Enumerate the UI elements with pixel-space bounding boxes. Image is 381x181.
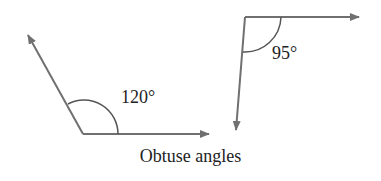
ray-down: [236, 17, 245, 130]
angle-arc: [68, 100, 118, 134]
angle-label: 120°: [121, 87, 155, 107]
caption: Obtuse angles: [0, 146, 381, 167]
ray-upper-left: [28, 35, 83, 134]
angle-95: 95°: [236, 17, 359, 130]
angle-label: 95°: [272, 43, 297, 63]
angle-120: 120°: [28, 35, 209, 134]
